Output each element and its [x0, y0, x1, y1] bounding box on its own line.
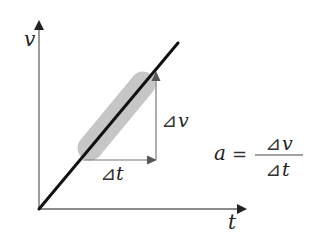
v-axis-label: v	[24, 27, 36, 51]
delta-v-var: v	[178, 109, 189, 131]
formula-equals: =	[232, 143, 247, 164]
t-axis-label: t	[228, 210, 237, 234]
formula-lhs: a	[214, 141, 226, 165]
formula-numerator-var: v	[282, 132, 293, 154]
acceleration-formula: a = ⊿ v ⊿ t	[214, 132, 303, 180]
delta-symbol-icon: ⊿	[100, 162, 116, 184]
delta-t-label: ⊿ t	[100, 162, 124, 184]
delta-symbol-icon: ⊿	[265, 132, 281, 154]
delta-v-label: ⊿ v	[161, 109, 189, 131]
formula-denominator-var: t	[282, 158, 290, 180]
velocity-time-diagram: v t ⊿ t ⊿ v a = ⊿ v ⊿ t	[0, 0, 323, 249]
delta-symbol-icon: ⊿	[265, 158, 281, 180]
delta-symbol-icon: ⊿	[161, 109, 177, 131]
velocity-line	[39, 43, 178, 209]
delta-t-var: t	[116, 162, 124, 184]
